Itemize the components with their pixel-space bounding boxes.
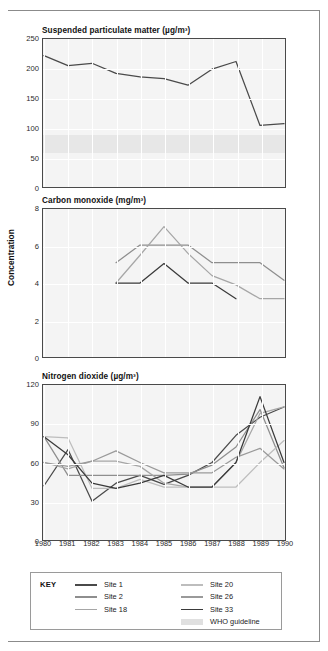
plot-box-spm <box>42 38 286 188</box>
x-tick-label: 1983 <box>107 539 123 548</box>
x-tick-label: 1988 <box>228 539 244 548</box>
data-line-site-33 <box>116 264 236 299</box>
gridline-horizontal <box>43 247 285 248</box>
chart-title-no2: Nitrogen dioxide (µg/m³) <box>42 372 308 381</box>
x-tick-label: 1981 <box>59 539 75 548</box>
gridline-horizontal <box>43 284 285 285</box>
x-tick-label: 1986 <box>180 539 196 548</box>
legend-swatch-site-26-icon <box>181 596 203 598</box>
who-guideline-band <box>43 135 285 153</box>
gridline-vertical <box>238 209 239 357</box>
chart-title-spm: Suspended particulate matter (µg/m³) <box>42 26 308 35</box>
gridline-vertical <box>44 385 45 540</box>
gridline-vertical <box>68 209 69 357</box>
gridline-vertical <box>213 385 214 540</box>
gridline-vertical <box>262 385 263 540</box>
gridline-vertical <box>213 39 214 187</box>
x-tick-label: 1989 <box>253 539 269 548</box>
series-lines-no2 <box>43 385 285 540</box>
y-tick-label: 0 <box>35 354 39 363</box>
x-tick-label: 1985 <box>156 539 172 548</box>
legend-key-label: KEY <box>40 580 56 589</box>
y-tick-label: 6 <box>35 241 39 250</box>
page-rule-top <box>8 10 320 11</box>
gridline-horizontal <box>43 159 285 160</box>
gridline-vertical <box>92 39 93 187</box>
legend-swatch-site-20-icon <box>181 584 203 586</box>
chart-panel-no2: Nitrogen dioxide (µg/m³) 0306090120 <box>20 372 308 541</box>
gridline-vertical <box>189 209 190 357</box>
x-axis-tick-labels: 1980198119821983198419851986198719881989… <box>42 539 286 551</box>
page-rule-bottom <box>8 641 320 642</box>
plot-area-no2: 0306090120 <box>42 384 286 541</box>
y-tick-label: 250 <box>26 34 39 43</box>
y-tick-label: 50 <box>31 154 39 163</box>
legend-swatch-site-2-icon <box>75 596 97 598</box>
plot-area-spm: 050100150200250 <box>42 38 286 188</box>
y-tick-label: 90 <box>31 419 39 428</box>
y-tick-label: 4 <box>35 279 39 288</box>
gridline-horizontal <box>43 503 285 504</box>
gridline-vertical <box>262 209 263 357</box>
series-lines-co <box>43 209 285 357</box>
data-line-site-1 <box>44 56 284 126</box>
y-tick-label: 100 <box>26 124 39 133</box>
y-tick-label: 150 <box>26 94 39 103</box>
gridline-vertical <box>189 39 190 187</box>
x-tick-label: 1990 <box>277 539 293 548</box>
series-lines-spm <box>43 39 285 187</box>
gridline-horizontal <box>43 322 285 323</box>
legend-swatch-site-1-icon <box>75 584 97 586</box>
legend-label: Site 1 <box>104 579 123 591</box>
legend-swatch-site-33-icon <box>181 609 203 611</box>
gridline-vertical <box>141 385 142 540</box>
y-tick-label: 30 <box>31 497 39 506</box>
y-tick-label: 2 <box>35 316 39 325</box>
x-tick-label: 1980 <box>35 539 51 548</box>
gridline-vertical <box>92 385 93 540</box>
x-tick-label: 1987 <box>204 539 220 548</box>
gridline-vertical <box>141 39 142 187</box>
gridline-vertical <box>165 209 166 357</box>
gridline-vertical <box>117 209 118 357</box>
gridline-vertical <box>238 385 239 540</box>
legend-label: Site 2 <box>104 591 123 603</box>
data-line-site-20 <box>44 437 284 489</box>
x-tick-label: 1982 <box>83 539 99 548</box>
gridline-vertical <box>213 209 214 357</box>
legend-label: Site 26 <box>210 591 233 603</box>
gridline-vertical <box>68 385 69 540</box>
plot-box-no2 <box>42 384 286 541</box>
gridline-vertical <box>117 39 118 187</box>
figure-page: Suspended particulate matter (µg/m³) 050… <box>0 0 328 651</box>
y-tick-label: 120 <box>26 380 39 389</box>
y-tick-label: 200 <box>26 64 39 73</box>
legend-box: KEY Site 1Site 2Site 18 Site 20Site 26Si… <box>30 572 282 630</box>
gridline-horizontal <box>43 69 285 70</box>
y-tick-label: 0 <box>35 184 39 193</box>
legend-label: WHO guideline <box>210 616 260 628</box>
gridline-vertical <box>44 39 45 187</box>
gridline-vertical <box>117 385 118 540</box>
legend-label: Site 33 <box>210 604 233 616</box>
gridline-vertical <box>189 385 190 540</box>
y-axis-label-concentration: Concentration <box>6 229 16 286</box>
chart-panel-spm: Suspended particulate matter (µg/m³) 050… <box>20 26 308 188</box>
plot-area-co: 02468 <box>42 208 286 358</box>
chart-title-co: Carbon monoxide (mg/m³) <box>42 196 308 205</box>
gridline-vertical <box>165 385 166 540</box>
chart-panel-co: Carbon monoxide (mg/m³) 02468 <box>20 196 308 358</box>
x-tick-label: 1984 <box>132 539 148 548</box>
gridline-vertical <box>92 209 93 357</box>
y-tick-label: 8 <box>35 204 39 213</box>
gridline-vertical <box>262 39 263 187</box>
legend-swatch-site-18-icon <box>75 609 97 611</box>
plot-box-co <box>42 208 286 358</box>
gridline-vertical <box>68 39 69 187</box>
gridline-horizontal <box>43 464 285 465</box>
legend-label: Site 18 <box>104 604 127 616</box>
gridline-vertical <box>238 39 239 187</box>
gridline-horizontal <box>43 99 285 100</box>
gridline-vertical <box>141 209 142 357</box>
gridline-vertical <box>165 39 166 187</box>
